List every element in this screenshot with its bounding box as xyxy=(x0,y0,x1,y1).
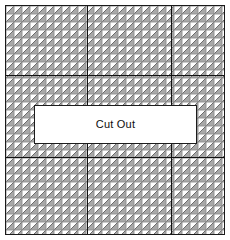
cut-out-label: Cut Out xyxy=(96,119,135,130)
section-divider-horizontal-1 xyxy=(6,75,224,76)
diagram-canvas: Cut Out xyxy=(0,0,230,240)
mesh-plate: Cut Out xyxy=(5,5,225,235)
section-divider-horizontal-2 xyxy=(6,157,224,158)
cut-out-region: Cut Out xyxy=(34,105,197,144)
